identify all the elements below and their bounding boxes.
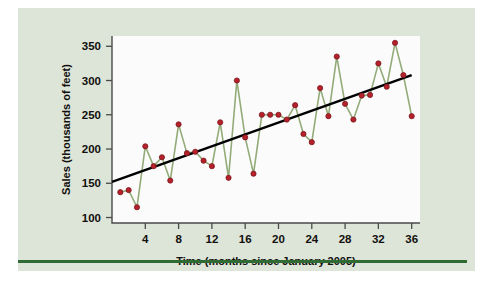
data-point xyxy=(176,122,181,127)
y-tick-label: 350 xyxy=(82,40,101,52)
x-axis-title: Time (months since January 2005) xyxy=(176,255,356,267)
data-point xyxy=(243,135,248,140)
x-tick-label: 28 xyxy=(339,233,352,245)
data-point xyxy=(184,151,189,156)
x-tick-label: 8 xyxy=(175,233,182,245)
x-tick-label: 24 xyxy=(305,233,318,245)
data-point xyxy=(334,54,339,59)
plot-background xyxy=(112,36,420,223)
y-axis-title: Sales (thousands of feet) xyxy=(60,64,72,195)
x-tick-label: 20 xyxy=(272,233,285,245)
data-point xyxy=(318,85,323,90)
data-point xyxy=(401,72,406,77)
data-point xyxy=(342,101,347,106)
data-point xyxy=(351,117,356,122)
y-tick-label: 300 xyxy=(82,75,101,87)
x-tick-label: 32 xyxy=(372,233,385,245)
y-tick-labels: 100150200250300350 xyxy=(82,40,101,223)
y-tick-label: 200 xyxy=(82,143,101,155)
figure-panel: 100150200250300350 4812162024283236 Sale… xyxy=(18,8,475,271)
y-tick-label: 100 xyxy=(82,212,101,224)
x-tick-label: 36 xyxy=(405,233,418,245)
data-point xyxy=(259,112,264,117)
x-tick-label: 16 xyxy=(239,233,252,245)
data-point xyxy=(409,114,414,119)
data-point xyxy=(326,114,331,119)
data-point xyxy=(201,158,206,163)
data-point xyxy=(276,112,281,117)
data-point xyxy=(359,93,364,98)
y-tick-label: 150 xyxy=(82,177,101,189)
data-point xyxy=(151,164,156,169)
data-point xyxy=(159,155,164,160)
chart-canvas: 100150200250300350 4812162024283236 Sale… xyxy=(18,8,475,271)
data-point xyxy=(392,40,397,45)
data-point xyxy=(284,117,289,122)
data-point xyxy=(226,175,231,180)
data-point xyxy=(234,78,239,83)
data-point xyxy=(168,178,173,183)
data-point xyxy=(143,144,148,149)
x-tick-label: 4 xyxy=(142,233,149,245)
data-point xyxy=(268,112,273,117)
data-point xyxy=(118,190,123,195)
sales-time-series-chart: 100150200250300350 4812162024283236 Sale… xyxy=(18,8,475,271)
data-point xyxy=(367,92,372,97)
data-point xyxy=(384,84,389,89)
data-point xyxy=(193,149,198,154)
y-tick-label: 250 xyxy=(82,109,101,121)
data-point xyxy=(251,171,256,176)
x-tick-labels: 4812162024283236 xyxy=(142,233,418,245)
data-point xyxy=(209,164,214,169)
data-point xyxy=(218,120,223,125)
data-point xyxy=(309,140,314,145)
x-tick-label: 12 xyxy=(205,233,218,245)
data-point xyxy=(134,205,139,210)
data-point xyxy=(126,188,131,193)
data-point xyxy=(376,61,381,66)
data-point xyxy=(301,131,306,136)
data-point xyxy=(293,103,298,108)
